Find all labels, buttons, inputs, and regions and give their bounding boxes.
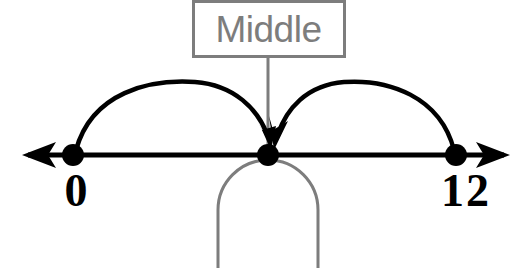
arch-outline (218, 160, 318, 268)
callout-label: Middle (192, 1, 345, 57)
arc-from-zero-to-middle (76, 82, 267, 150)
tick-label-twelve: 12 (436, 168, 496, 214)
point-dot-twelve (445, 144, 467, 166)
point-dot-middle (257, 144, 279, 166)
arc-from-twelve-to-middle (278, 82, 454, 150)
point-dot-zero (62, 144, 84, 166)
diagram-canvas: Middle 0 12 (0, 0, 528, 274)
tick-label-zero: 0 (59, 168, 93, 214)
